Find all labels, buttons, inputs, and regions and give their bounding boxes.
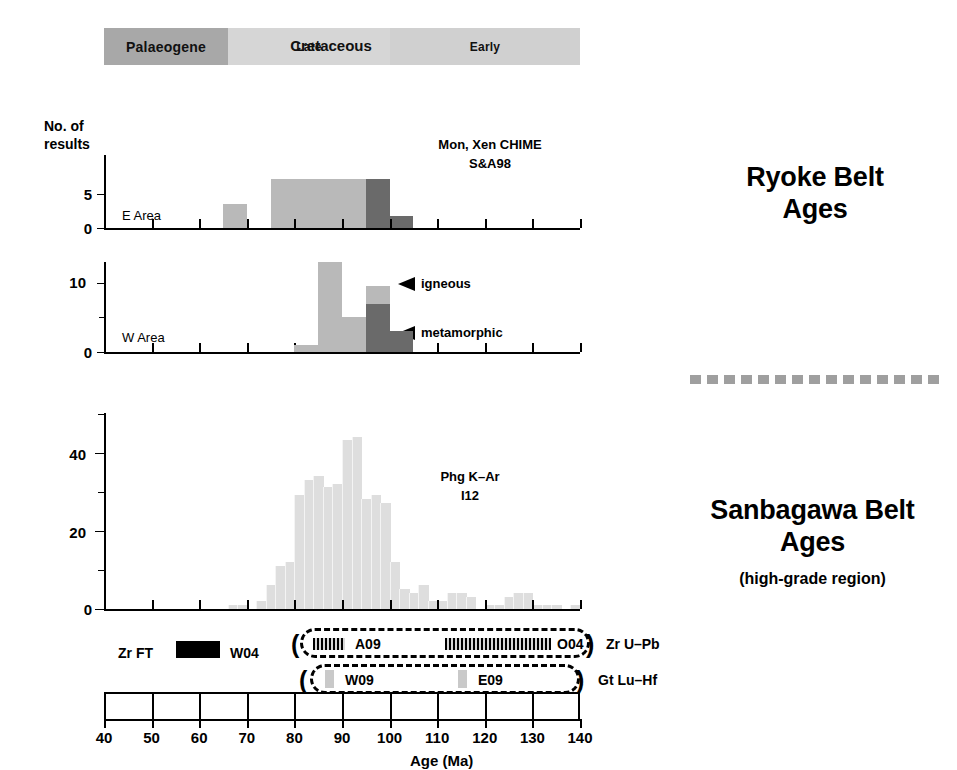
timescale-epoch-palaeogene: Palaeogene (104, 28, 228, 65)
x-tick-130 (532, 600, 534, 609)
divider-square (690, 375, 701, 384)
e-area-bar-igneous (294, 179, 318, 228)
divider-square (843, 375, 854, 384)
age-axis-tick-130 (532, 719, 534, 728)
sanbagawa-belt-heading-line2: Ages (665, 527, 957, 559)
divider-square (707, 375, 718, 384)
w-area-ytick-0 (97, 352, 106, 353)
ryoke-belt-heading: Ryoke Belt Ages (690, 162, 940, 226)
sanbagawa-source-line2: I12 (390, 487, 550, 506)
divider-square (877, 375, 888, 384)
divider-square (894, 375, 905, 384)
timescale-epoch-early: Early (390, 28, 580, 65)
sanbagawa-x-axis (104, 609, 580, 611)
w-area-annotation-igneous: igneous (398, 276, 471, 291)
sanbagawa-ylabel-0: 0 (58, 601, 92, 618)
age-axis-tick-120 (485, 719, 487, 728)
e-area-ylabel-0: 0 (58, 220, 92, 237)
age-axis-label-60: 60 (182, 729, 216, 746)
x-tick-40 (104, 219, 106, 228)
w-area-bar-metamorphic (366, 304, 390, 352)
sanbagawa-belt-heading: Sanbagawa Belt Ages (665, 495, 957, 559)
divider-square (758, 375, 769, 384)
key-zr-ft-label: Zr FT (118, 645, 153, 661)
age-axis-tick-50 (152, 719, 154, 728)
sanbagawa-bar (551, 605, 562, 609)
y-axis-title-line1: No. of (44, 118, 90, 136)
x-tick-60 (199, 600, 201, 609)
key-gt-luhf-swatch-e09 (458, 670, 467, 688)
w-area-annotation-metamorphic-label: metamorphic (421, 325, 503, 340)
e-area-ytick-0 (97, 228, 106, 229)
e-area-bar-igneous (342, 179, 366, 228)
ryoke-belt-heading-line1: Ryoke Belt (690, 162, 940, 194)
sanbagawa-source-note: Phg K–Ar I12 (390, 468, 550, 506)
divider-square (826, 375, 837, 384)
key-zr-ft-swatch (176, 641, 220, 658)
e-area-bar-metamorphic (390, 216, 414, 228)
sanbagawa-source-line1: Phg K–Ar (390, 468, 550, 487)
ryoke-belt-heading-line2: Ages (690, 194, 940, 226)
x-tick-50 (152, 600, 154, 609)
w-area-bar-igneous (294, 345, 318, 352)
key-zr-upb-swatch-a09 (313, 638, 345, 650)
x-tick-140 (580, 219, 582, 228)
x-tick-110 (437, 343, 439, 352)
key-zr-upb-source-a09: A09 (355, 636, 381, 652)
e-area-ylabel-5: 5 (58, 186, 92, 203)
divider-square (928, 375, 939, 384)
x-tick-70 (247, 343, 249, 352)
age-axis-frame-divider-120 (485, 692, 487, 719)
x-tick-130 (532, 343, 534, 352)
divider-square (809, 375, 820, 384)
x-tick-120 (485, 600, 487, 609)
age-axis-label-40: 40 (87, 729, 121, 746)
age-axis-frame-divider-50 (152, 692, 154, 719)
key-zr-upb-paren-close: ) (586, 632, 594, 657)
divider-square (911, 375, 922, 384)
age-axis-label-100: 100 (373, 729, 407, 746)
x-tick-90 (342, 600, 344, 609)
w-area-ylabel-10: 10 (52, 274, 86, 291)
key-zr-upb-label: Zr U–Pb (606, 636, 660, 652)
sanbagawa-ylabel-20: 20 (52, 524, 86, 541)
key-zr-upb-swatch-o04 (445, 638, 551, 650)
divider-square (775, 375, 786, 384)
key-gt-luhf-source-e09: E09 (478, 672, 503, 688)
x-tick-40 (104, 600, 106, 609)
x-tick-70 (247, 600, 249, 609)
e-area-source-note: Mon, Xen CHIME S&A98 (400, 136, 580, 174)
key-gt-luhf-swatch-w09 (325, 670, 334, 688)
w-area-bar-igneous (318, 262, 342, 352)
age-axis-frame-divider-110 (437, 692, 439, 719)
w-area-panel-label: W Area (122, 330, 165, 345)
age-axis-label-110: 110 (420, 729, 454, 746)
age-axis-tick-90 (342, 719, 344, 728)
key-zr-upb-source-o04: O04 (557, 636, 583, 652)
x-tick-140 (580, 600, 582, 609)
key-gt-luhf-source-w09: W09 (345, 672, 374, 688)
sanbagawa-ylabel-40: 40 (52, 446, 86, 463)
age-axis-label-90: 90 (325, 729, 359, 746)
e-area-source-line2: S&A98 (400, 155, 580, 174)
key-gt-luhf-paren-close: ) (576, 668, 584, 693)
sanbagawa-belt-heading-line1: Sanbagawa Belt (665, 495, 957, 527)
w-area-annotation-igneous-label: igneous (421, 276, 471, 291)
key-zr-ft-source: W04 (230, 645, 259, 661)
x-tick-70 (247, 219, 249, 228)
divider-square (860, 375, 871, 384)
x-tick-100 (390, 600, 392, 609)
divider-square (724, 375, 735, 384)
e-area-bar-igneous (318, 179, 342, 228)
arrow-left-icon (398, 277, 415, 291)
age-axis-frame-divider-130 (532, 692, 534, 719)
age-axis-frame-divider-90 (342, 692, 344, 719)
sanbagawa-bars (104, 413, 580, 609)
age-axis-tick-40 (104, 719, 106, 728)
age-axis-tick-110 (437, 719, 439, 728)
x-tick-80 (294, 600, 296, 609)
age-axis-frame-divider-60 (199, 692, 201, 719)
x-tick-120 (485, 219, 487, 228)
key-gt-luhf-paren-open: ( (299, 668, 307, 693)
e-area-bar-igneous (223, 204, 247, 228)
